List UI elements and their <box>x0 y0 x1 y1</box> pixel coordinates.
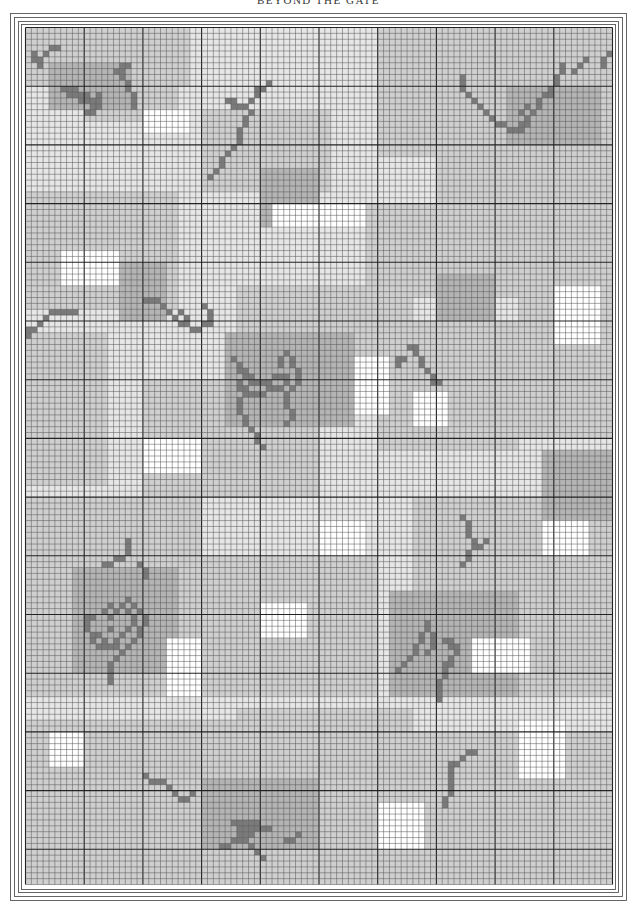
motif-upper-branch <box>260 86 266 92</box>
motif-center-flower <box>266 380 272 386</box>
motif-upper-branch <box>243 116 249 122</box>
motif-left-curl <box>190 327 196 333</box>
motif-upper-branch <box>219 163 225 169</box>
motif-upper-branch <box>213 168 219 174</box>
motif-top-right-branch <box>489 116 495 122</box>
motif-left-leaf <box>131 615 137 621</box>
motif-top-right-branch <box>495 121 501 127</box>
motif-right-lower-flower <box>407 656 413 662</box>
motif-top-left-flower <box>90 98 96 104</box>
motif-top-left-flower <box>78 98 84 104</box>
motif-left-leaf <box>90 638 96 644</box>
motif-center-flower <box>272 386 278 392</box>
motif-upper-branch <box>243 104 249 110</box>
motif-left-leaf <box>108 615 114 621</box>
motif-right-sprig <box>419 362 425 368</box>
motif-right-lower-flower <box>413 644 419 650</box>
motif-upper-branch <box>254 92 260 98</box>
motif-top-left-flower <box>90 104 96 110</box>
motif-upper-branch <box>231 98 237 104</box>
motif-right-lower-flower <box>448 638 454 644</box>
motif-top-left-flower <box>49 45 55 51</box>
motif-top-right-branch <box>477 104 483 110</box>
motif-top-right-branch <box>524 121 530 127</box>
motif-left-leaf <box>96 644 102 650</box>
motif-right-lower-flower <box>436 697 442 703</box>
motif-left-leaf <box>143 615 149 621</box>
motif-right-lower-flower <box>401 661 407 667</box>
motif-upper-branch <box>249 98 255 104</box>
motif-left-curl <box>207 315 213 321</box>
motif-left-leaf <box>108 667 114 673</box>
motif-right-lower-flower <box>448 656 454 662</box>
motif-top-left-flower <box>31 57 37 63</box>
motif-right-lower-flower <box>431 638 437 644</box>
motif-left-leaf <box>114 638 120 644</box>
motif-center-flower <box>243 415 249 421</box>
motif-bottom-leaf <box>296 832 302 838</box>
motif-left-leaf <box>114 609 120 615</box>
motif-top-right-branch <box>472 98 478 104</box>
motif-top-left-flower <box>125 86 131 92</box>
motif-top-right-branch <box>530 110 536 116</box>
motif-left-leaf <box>119 632 125 638</box>
motif-right-sprig <box>425 368 431 374</box>
motif-right-sprig <box>413 344 419 350</box>
motif-left-leaf <box>96 632 102 638</box>
motif-top-left-flower <box>84 110 90 116</box>
motif-center-flower <box>243 386 249 392</box>
motif-right-lower-flower <box>425 626 431 632</box>
motif-center-flower <box>237 380 243 386</box>
motif-left-leaf <box>84 626 90 632</box>
motif-right-sprig <box>419 356 425 362</box>
motif-bottom-leaf <box>249 843 255 849</box>
motif-bottom-leaf <box>266 826 272 832</box>
motif-lower-right-stem <box>448 767 454 773</box>
motif-center-flower <box>249 427 255 433</box>
motif-right-sprig <box>407 344 413 350</box>
motif-center-flower <box>254 433 260 439</box>
motif-upper-branch <box>219 157 225 163</box>
motif-left-leaf <box>108 626 114 632</box>
motif-right-lower-flower <box>431 632 437 638</box>
motif-left-leaf <box>125 538 131 544</box>
motif-left-curl <box>207 321 213 327</box>
motif-top-left-flower <box>84 98 90 104</box>
motif-left-leaf <box>102 644 108 650</box>
motif-right-lower-flower <box>436 679 442 685</box>
motif-right-sprig <box>436 380 442 386</box>
motif-lower-right-stem <box>448 773 454 779</box>
motif-bottom-leaf <box>254 820 260 826</box>
motif-bottom-leaf <box>231 838 237 844</box>
motif-top-left-flower <box>90 110 96 116</box>
motif-upper-branch <box>254 86 260 92</box>
motif-left-curl <box>55 309 61 315</box>
motif-lower-right-stem <box>460 755 466 761</box>
motif-top-right-branch <box>601 63 607 69</box>
motif-left-curl <box>72 309 78 315</box>
motif-bottom-leaf <box>184 796 190 802</box>
motif-bottom-leaf <box>231 820 237 826</box>
motif-right-lower-flower <box>442 667 448 673</box>
motif-center-flower <box>254 380 260 386</box>
motif-left-curl <box>49 309 55 315</box>
motif-upper-branch <box>237 127 243 133</box>
motif-center-flower <box>254 391 260 397</box>
motif-top-left-flower <box>131 92 137 98</box>
motif-right-lower-flower <box>419 632 425 638</box>
motif-top-left-flower <box>125 80 131 86</box>
motif-top-right-branch <box>560 63 566 69</box>
motif-center-flower <box>237 397 243 403</box>
motif-left-leaf <box>143 568 149 574</box>
motif-center-flower <box>296 380 302 386</box>
motif-top-right-branch <box>507 127 513 133</box>
stitch-chart <box>0 0 637 908</box>
motif-right-mid-sprig <box>466 521 472 527</box>
motif-bottom-leaf <box>172 791 178 797</box>
motif-center-flower <box>296 374 302 380</box>
motif-left-leaf <box>137 632 143 638</box>
motif-bottom-leaf <box>260 826 266 832</box>
motif-center-flower <box>266 386 272 392</box>
motif-lower-right-stem <box>448 785 454 791</box>
motif-left-leaf <box>125 626 131 632</box>
